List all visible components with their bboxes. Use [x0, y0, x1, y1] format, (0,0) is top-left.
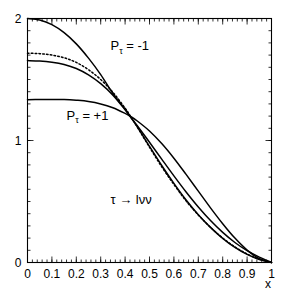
x-tick-label: 0.2 [68, 267, 85, 281]
x-tick-label: 0.8 [214, 267, 231, 281]
annotation-decay-channel: τ → lνν [110, 192, 151, 207]
x-tick-label: 0.9 [239, 267, 256, 281]
x-tick-label: 0.1 [44, 267, 61, 281]
y-tick-label: 2 [15, 12, 22, 26]
x-tick-label: 0.3 [92, 267, 109, 281]
x-tick-label: 0.4 [117, 267, 134, 281]
annotation-p-tau-plus-one: Pτ = +1 [67, 108, 109, 126]
x-tick-label: 0.7 [190, 267, 207, 281]
y-tick-label: 1 [15, 134, 22, 148]
figure-container: 00.10.20.30.40.50.60.70.80.91 012 Pτ = -… [0, 0, 290, 300]
x-tick-label: 0.6 [166, 267, 183, 281]
x-axis-title: x [265, 277, 271, 291]
tau-decay-spectrum-chart: 00.10.20.30.40.50.60.70.80.91 012 Pτ = -… [0, 0, 290, 300]
annotation-p-tau-minus-one: Pτ = -1 [110, 38, 149, 56]
y-tick-label: 0 [15, 256, 22, 270]
x-tick-label: 0.5 [141, 267, 158, 281]
x-tick-label: 0 [24, 267, 31, 281]
